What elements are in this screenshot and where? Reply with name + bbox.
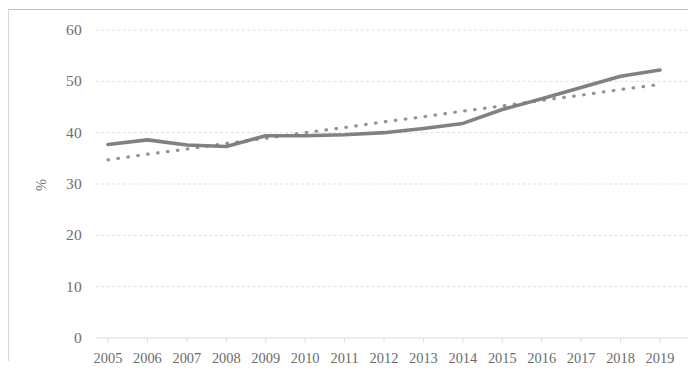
x-tick-label-2011: 2011 (325, 351, 365, 365)
x-tick-label-2012: 2012 (364, 351, 404, 365)
y-tick-label-50: 50 (38, 73, 82, 89)
x-tick-label-2019: 2019 (640, 351, 680, 365)
chart-svg (0, 0, 695, 373)
x-tick-label-2008: 2008 (206, 351, 246, 365)
x-tick-label-2015: 2015 (482, 351, 522, 365)
x-tick-label-2016: 2016 (522, 351, 562, 365)
x-tick-label-2017: 2017 (561, 351, 601, 365)
x-tick-label-2006: 2006 (127, 351, 167, 365)
x-tick-label-2007: 2007 (167, 351, 207, 365)
series-dotted-trend (108, 84, 660, 159)
x-tick-label-2009: 2009 (246, 351, 286, 365)
y-tick-label-40: 40 (38, 125, 82, 141)
plot-area: 6050403020100 20052006200720082009201020… (0, 0, 695, 373)
y-tick-label-60: 60 (38, 22, 82, 38)
chart-container: 6050403020100 20052006200720082009201020… (0, 0, 695, 373)
x-tick-label-2005: 2005 (88, 351, 128, 365)
y-tick-label-10: 10 (38, 279, 82, 295)
x-tick-label-2014: 2014 (443, 351, 483, 365)
y-axis-title: % (28, 172, 54, 198)
gridlines (96, 30, 688, 338)
x-tick-label-2013: 2013 (403, 351, 443, 365)
x-axis-ticks (108, 338, 660, 343)
x-tick-label-2018: 2018 (601, 351, 641, 365)
trend-line (108, 84, 660, 159)
y-tick-label-0: 0 (38, 330, 82, 346)
x-tick-label-2010: 2010 (285, 351, 325, 365)
y-tick-label-20: 20 (38, 227, 82, 243)
